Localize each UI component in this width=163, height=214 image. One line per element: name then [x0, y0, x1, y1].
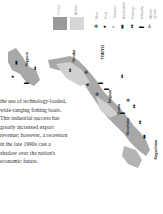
text-line: economic future.	[0, 157, 70, 166]
rice-icon: ❉	[94, 24, 98, 29]
winter-sports-label: Winter sports	[149, 1, 157, 19]
rice-icon: ❉	[84, 70, 88, 75]
city-label-hiroshima: Hiroshima	[126, 118, 130, 136]
forest-label: Forest	[57, 1, 61, 15]
fish-icon: ⬍	[33, 66, 37, 71]
text-line: This industrial success has	[0, 114, 70, 123]
fish-icon: ⬍	[120, 74, 124, 79]
rice-icon: ❉	[95, 92, 99, 97]
fish-icon: ⬍	[132, 104, 136, 109]
industry-label: Industry	[140, 1, 144, 19]
fish-icon: ⬍	[68, 68, 72, 73]
text-line: greatly increased export	[0, 123, 70, 132]
fruit-icon: ●	[86, 82, 89, 87]
industry-icon: ▬	[24, 80, 29, 85]
industry-icon: ▬	[139, 24, 144, 29]
industry-icon: ▬	[120, 110, 125, 115]
arable-label: Arable	[74, 1, 78, 15]
cattle-icon: ▮	[15, 60, 18, 65]
city-label-sapporo: Sapporo	[25, 52, 29, 67]
tobacco-icon: ↄ	[112, 24, 114, 29]
fishing-label: Fishing	[131, 1, 135, 19]
fish-icon: ⬍	[130, 24, 134, 29]
text-line: wide-ranging fishing boats.	[0, 106, 70, 115]
city-label-sendai: Sendai	[72, 50, 76, 62]
cattle-label: Beef cattle	[122, 1, 126, 19]
skier-icon: ⅄	[148, 24, 151, 29]
text-line: revenue; however, a recession	[0, 131, 70, 140]
tobacco-label: Tobacco	[113, 1, 117, 19]
city-label-kagoshima: Kagoshima	[154, 140, 158, 159]
city-label-tokyo: TOKYO	[100, 45, 105, 60]
text-line: in the late 1990s cast a	[0, 140, 70, 149]
rice-label: Rice	[95, 1, 99, 19]
fish-icon: ⬍	[138, 120, 142, 125]
forest-swatch	[53, 17, 67, 30]
rice-icon: ❉	[126, 98, 130, 103]
city-label-nagoya: Nagoya	[108, 90, 112, 103]
fruit-icon: ●	[11, 74, 14, 79]
fruit-icon: ●	[103, 24, 106, 29]
industry-icon: ▬	[98, 80, 103, 85]
cattle-icon: ▮	[121, 24, 124, 29]
fruit-label: Fruit	[104, 1, 108, 19]
arable-swatch	[70, 17, 84, 30]
map-legend: Forest Arable ❉ Rice ● Fruit ↄ Tobacco ▮…	[52, 0, 163, 32]
body-text-paragraph: the use of technology-loaded, wide-rangi…	[0, 97, 70, 166]
industry-icon: ▬	[104, 86, 109, 91]
text-line: the use of technology-loaded,	[0, 97, 70, 106]
text-line: shadow over the nation's	[0, 149, 70, 158]
cattle-icon: ▮	[143, 134, 146, 139]
